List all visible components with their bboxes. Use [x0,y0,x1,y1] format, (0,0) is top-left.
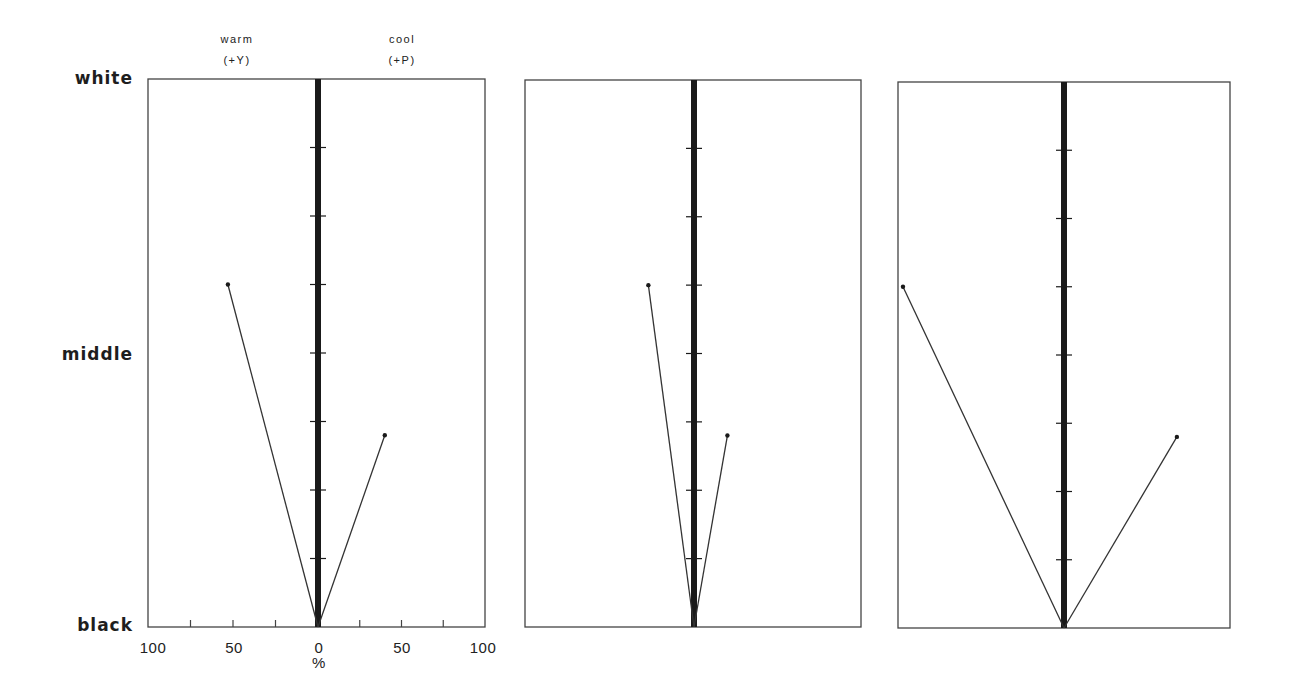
y-label-middle: middle [62,344,133,364]
warm-sub-label: (+Y) [223,54,250,66]
data-point [646,283,650,287]
cool-sub-label: (+P) [388,54,415,66]
panels [148,79,1230,628]
data-line [648,285,694,627]
data-point [725,433,729,437]
data-line [903,287,1064,628]
y-label-black: black [77,615,133,635]
x-tick-label: 50 [393,639,411,656]
x-tick-label: 100 [140,639,167,656]
warm-label: warm [220,33,254,45]
data-line [1064,437,1177,628]
panel-3 [898,82,1230,628]
data-line [318,435,385,627]
data-point [383,433,387,437]
data-point [1175,435,1179,439]
x-tick-label: 50 [225,639,243,656]
data-point [226,282,230,286]
panel-1 [148,79,485,627]
chart: warm (+Y) cool (+P) white middle black 1… [0,0,1292,689]
data-line [694,436,727,627]
data-point [901,285,905,289]
cool-label: cool [389,33,415,45]
data-line [228,285,318,628]
y-label-white: white [75,68,133,88]
x-tick-label: 100 [470,639,497,656]
x-unit-label: % [312,654,326,671]
panel-2 [525,80,861,627]
